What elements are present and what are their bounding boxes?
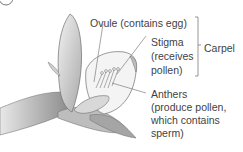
anthers-label-line3: which contains [151, 114, 220, 126]
carpel-bracket [195, 17, 201, 76]
carpel-label: Carpel [204, 42, 235, 54]
stigma-label-line3: pollen) [151, 64, 183, 76]
stigma-label-line2: (receives [151, 50, 194, 62]
anthers-label-line4: sperm) [151, 127, 184, 139]
step-marker-icon [0, 0, 13, 5]
ovule-label: Ovule (contains egg) [90, 17, 187, 29]
petal [58, 14, 81, 112]
anthers-label-line2: (produce pollen, [151, 101, 226, 113]
anthers-label-line1: Anthers [151, 88, 187, 100]
stigma-label-line1: Stigma [151, 36, 184, 48]
